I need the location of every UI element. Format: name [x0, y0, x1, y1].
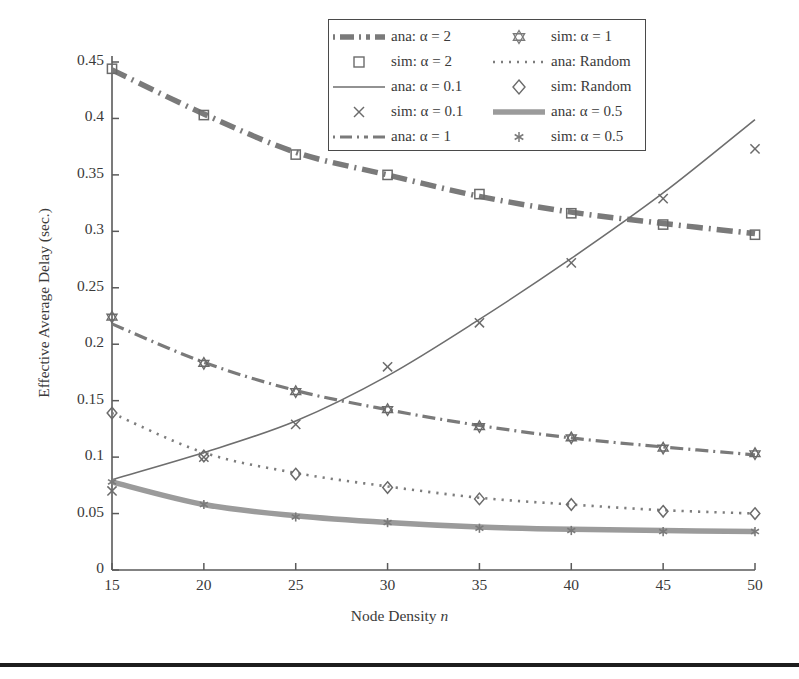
legend-column-right: sim: α = 1ana: Randomsim: Randomana: α =… — [491, 24, 645, 149]
y-tick-label: 0.05 — [40, 503, 104, 521]
legend-item: sim: α = 0.1 — [331, 99, 491, 124]
marker-hexagram — [658, 442, 668, 454]
y-tick-label: 0.4 — [40, 107, 104, 125]
legend-item-label: sim: α = 0.5 — [547, 128, 623, 145]
legend-item-label: ana: Random — [547, 53, 631, 70]
legend-item: sim: α = 1 — [491, 24, 645, 49]
legend-column-left: ana: α = 2sim: α = 2ana: α = 0.1 sim: α … — [331, 24, 491, 149]
legend-item-label: sim: Random — [547, 78, 631, 95]
legend-item-label: ana: α = 0.5 — [547, 103, 622, 120]
y-tick-label: 0.2 — [40, 333, 104, 351]
series-line-ana-random — [112, 413, 755, 513]
marker-hexagram — [383, 404, 393, 416]
x-tick-label: 20 — [174, 576, 234, 594]
chart-legend: ana: α = 2sim: α = 2ana: α = 0.1 sim: α … — [328, 19, 646, 151]
legend-item: ana: α = 1 — [331, 124, 491, 149]
x-tick-label: 25 — [266, 576, 326, 594]
dotted-line-sample — [491, 50, 547, 74]
y-tick-label: 0.15 — [40, 390, 104, 408]
legend-item-label: sim: α = 1 — [547, 28, 612, 45]
y-tick-label: 0.45 — [40, 51, 104, 69]
figure-container: Effective Average Delay (sec.) Node Dens… — [0, 0, 799, 679]
hexagram-marker-sample — [491, 25, 547, 49]
x-tick-label: 40 — [541, 576, 601, 594]
y-tick-label: 0.3 — [40, 220, 104, 238]
marker-cross — [750, 144, 759, 153]
legend-item-label: ana: α = 1 — [387, 128, 451, 145]
marker-cross — [383, 362, 392, 371]
series-line-ana-alpha-0-1 — [112, 120, 755, 480]
legend-item: ana: α = 0.1 — [331, 74, 491, 99]
legend-item-label: sim: α = 0.1 — [387, 103, 463, 120]
legend-item-label: sim: α = 2 — [387, 53, 452, 70]
x-tick-label: 15 — [82, 576, 142, 594]
y-tick-label: 0 — [40, 559, 104, 577]
x-axis-title-variable: n — [440, 607, 448, 624]
marker-hexagram — [199, 358, 209, 370]
x-axis-title: Node Density n — [0, 607, 799, 625]
solid-thin-line-sample — [331, 75, 387, 99]
dashdot-medium-line-sample — [331, 125, 387, 149]
marker-diamond — [750, 508, 760, 520]
legend-item: ana: α = 2 — [331, 24, 491, 49]
legend-item: sim: α = 2 — [331, 49, 491, 74]
legend-item: sim: Random — [491, 74, 645, 99]
x-axis-title-prefix: Node Density — [351, 607, 441, 624]
x-tick-label: 45 — [633, 576, 693, 594]
legend-item: ana: α = 0.5 — [491, 99, 645, 124]
marker-cross — [567, 258, 576, 267]
marker-cross — [659, 194, 668, 203]
dashdot-thick-line-sample — [331, 25, 387, 49]
legend-item-label: ana: α = 2 — [387, 28, 451, 45]
x-tick-label: 30 — [358, 576, 418, 594]
marker-diamond — [475, 493, 485, 505]
y-tick-label: 0.35 — [40, 164, 104, 182]
series-line-ana-alpha-1 — [112, 324, 755, 455]
bottom-divider-rule — [0, 663, 799, 667]
diamond-marker-sample — [491, 75, 547, 99]
marker-hexagram — [291, 386, 301, 398]
legend-item: ana: Random — [491, 49, 645, 74]
asterisk-marker-sample — [491, 125, 547, 149]
y-tick-label: 0.1 — [40, 446, 104, 464]
series-line-ana-alpha-0-5 — [112, 482, 755, 532]
legend-item-label: ana: α = 0.1 — [387, 78, 462, 95]
x-tick-label: 35 — [449, 576, 509, 594]
x-tick-label: 50 — [725, 576, 785, 594]
square-marker-sample — [331, 50, 387, 74]
legend-item: sim: α = 0.5 — [491, 124, 645, 149]
y-tick-label: 0.25 — [40, 277, 104, 295]
cross-marker-sample — [331, 100, 387, 124]
solid-thick-line-sample — [491, 100, 547, 124]
